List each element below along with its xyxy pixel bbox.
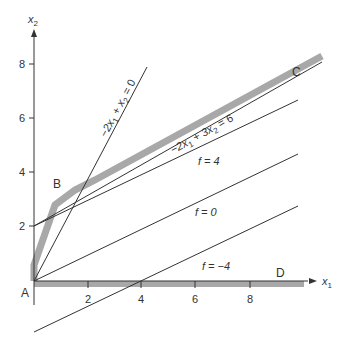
- point-label-D: D: [276, 266, 285, 280]
- y-tick-label-6: 6: [19, 112, 25, 124]
- y-tick-label-8: 8: [19, 58, 25, 70]
- objective-line-f4: [34, 100, 298, 226]
- objective-label-f0: f = 0: [195, 206, 218, 218]
- objective-label-fm4: f = −4: [202, 260, 230, 272]
- x-tick-label-6: 6: [192, 293, 198, 305]
- y-tick-label-4: 4: [19, 166, 25, 178]
- objective-label-f4: f = 4: [198, 155, 220, 167]
- constraint-line-1: [34, 67, 147, 281]
- x1-axis-arrow-icon: [309, 278, 317, 284]
- objective-line-fm4: [34, 206, 298, 332]
- x2-axis-label: x2: [27, 13, 39, 28]
- objective-line-f0: [34, 154, 298, 281]
- point-label-C: C: [292, 65, 301, 79]
- x-tick-label-2: 2: [85, 293, 91, 305]
- x-tick-label-4: 4: [138, 293, 144, 305]
- feasible-boundary-upper: [34, 56, 322, 281]
- y-tick-label-2: 2: [19, 220, 25, 232]
- x-tick-label-8: 8: [247, 293, 253, 305]
- point-label-B: B: [53, 177, 61, 191]
- point-label-A: A: [21, 286, 29, 300]
- x2-axis-arrow-icon: [31, 29, 37, 37]
- x1-axis-label: x1: [321, 275, 333, 290]
- constraint-label-1: −2x1 + x2 = 0: [97, 77, 140, 140]
- lp-diagram: 2 4 6 8 2 4 6 8 x2 x1 −2x1 + x2 = 0 −2x1…: [0, 0, 344, 343]
